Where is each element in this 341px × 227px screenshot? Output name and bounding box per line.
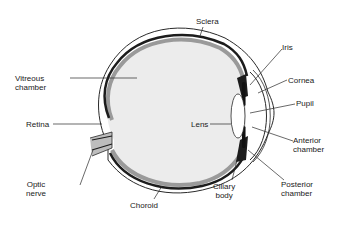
label-cornea: Cornea <box>288 76 314 85</box>
label-lens: Lens <box>191 120 208 129</box>
label-retina: Retina <box>26 120 49 129</box>
label-sclera: Sclera <box>196 17 219 26</box>
label-iris: Iris <box>282 43 293 52</box>
label-anterior-chamber: Anterior chamber <box>293 136 324 154</box>
label-choroid: Choroid <box>130 201 158 210</box>
lens <box>231 94 245 138</box>
label-optic-nerve: Optic nerve <box>26 180 46 198</box>
label-posterior-chamber: Posterior chamber <box>281 180 313 198</box>
optic-nerve <box>90 132 112 156</box>
label-pupil: Pupil <box>296 99 314 108</box>
label-vitreous-chamber: Vitreous chamber <box>15 74 46 92</box>
label-ciliary-body: Ciliary body <box>213 182 235 200</box>
